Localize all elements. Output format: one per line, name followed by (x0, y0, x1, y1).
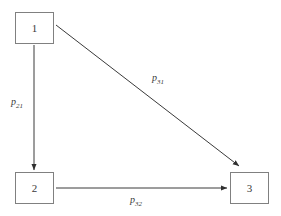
edge-1-to-3 (56, 25, 239, 166)
edge-label-p21: p21 (11, 97, 23, 110)
transition-diagram: 1 2 3 p21 p31 p32 (0, 0, 281, 216)
edge-label-p31-sub: 31 (157, 78, 164, 86)
node-box-3: 3 (230, 172, 269, 204)
edge-label-p32: p32 (130, 195, 142, 208)
edge-label-p31: p31 (152, 73, 164, 86)
edge-label-p21-sub: 21 (16, 102, 23, 110)
node-label-2: 2 (32, 183, 38, 194)
edge-label-p32-sub: 32 (135, 200, 142, 208)
node-box-2: 2 (15, 172, 54, 204)
node-label-3: 3 (247, 183, 253, 194)
node-label-1: 1 (32, 23, 38, 34)
node-box-1: 1 (15, 12, 54, 44)
